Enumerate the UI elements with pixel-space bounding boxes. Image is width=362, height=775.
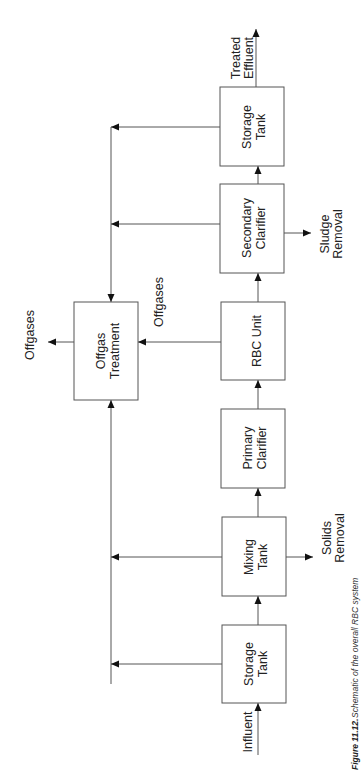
svg-text:Clarifier: Clarifier <box>254 206 268 249</box>
svg-text:Offgas: Offgas <box>94 333 108 370</box>
svg-text:Schematic of the overall RBC s: Schematic of the overall RBC system <box>350 578 360 718</box>
effluent-arrowhead <box>253 29 260 37</box>
svg-text:Offgases: Offgases <box>152 277 166 327</box>
svg-text:Storage: Storage <box>240 105 254 149</box>
influent-label: Influent <box>241 711 255 753</box>
rbc-unit-label: RBC Unit <box>250 314 264 367</box>
svg-text:Tank: Tank <box>256 543 270 570</box>
sludge-removal-label: Sludge Removal <box>318 209 345 258</box>
treated-effluent-label: Treated Effluent <box>229 36 256 79</box>
solids-removal-label: Solids Removal <box>320 513 347 562</box>
mixing-tank-label: Mixing Tank <box>242 539 270 575</box>
svg-text:Secondary: Secondary <box>240 197 254 258</box>
influent-arrowhead <box>255 703 262 711</box>
svg-text:Sludge: Sludge <box>318 214 332 253</box>
primary-clarifier-label: Primary Clarifier <box>241 426 269 470</box>
svg-text:Effluent: Effluent <box>242 36 256 79</box>
rbc-system-schematic: Storage Tank Secondary Clarifier RBC Uni… <box>0 0 362 775</box>
svg-text:RBC Unit: RBC Unit <box>250 314 264 367</box>
svg-text:Mixing: Mixing <box>242 539 256 575</box>
svg-text:Solids: Solids <box>320 521 334 555</box>
svg-text:Removal: Removal <box>333 513 347 562</box>
svg-text:Primary: Primary <box>241 426 255 470</box>
svg-text:Figure 11.12.: Figure 11.12. <box>350 719 360 770</box>
svg-text:Storage: Storage <box>242 642 256 686</box>
figure-caption: Figure 11.12. Schematic of the overall R… <box>350 578 360 770</box>
svg-text:Treatment: Treatment <box>108 322 122 379</box>
svg-text:Offgases: Offgases <box>23 310 37 360</box>
svg-text:Influent: Influent <box>241 711 255 753</box>
svg-text:Tank: Tank <box>254 113 268 140</box>
svg-text:Clarifier: Clarifier <box>255 426 269 469</box>
svg-text:Removal: Removal <box>331 209 345 258</box>
offgases-out-label: Offgases <box>23 310 37 360</box>
svg-text:Treated: Treated <box>229 37 243 80</box>
svg-text:Tank: Tank <box>256 650 270 677</box>
offgases-rbc-label: Offgases <box>152 277 166 327</box>
